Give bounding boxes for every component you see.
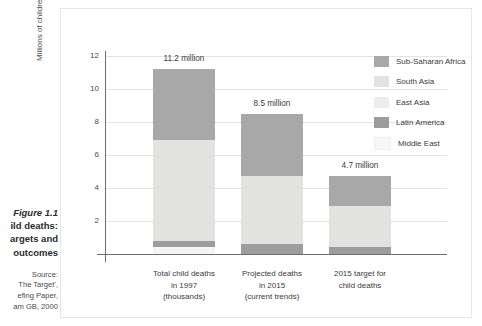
legend-swatch bbox=[374, 76, 389, 87]
figure-title-line-2: ild deaths: bbox=[0, 219, 58, 232]
x-axis-category-label: Total child deathsin 1997(thousands) bbox=[138, 268, 231, 303]
y-axis-tick-label: 4 bbox=[83, 183, 99, 192]
source-label: Source: bbox=[0, 270, 58, 281]
x-axis-label-line: in 2015 bbox=[226, 280, 319, 292]
legend-swatch bbox=[374, 97, 389, 108]
source-block: Source: The Target', efing Paper, am GB,… bbox=[0, 270, 58, 312]
figure-caption-block: Figure 1.1 ild deaths: argets and outcom… bbox=[0, 206, 58, 312]
figure-title-line-4: outcomes bbox=[0, 246, 58, 259]
x-axis-label-line: (current trends) bbox=[226, 291, 319, 303]
stacked-bar[interactable] bbox=[241, 114, 303, 254]
x-axis-category-label: Projected deathsin 2015(current trends) bbox=[226, 268, 319, 303]
bar-segment[interactable] bbox=[153, 140, 215, 241]
legend-swatch bbox=[374, 137, 391, 150]
source-line-3: am GB, 2000 bbox=[0, 302, 58, 313]
bar-segment[interactable] bbox=[241, 244, 303, 254]
y-axis-tick-label: 6 bbox=[83, 150, 99, 159]
legend-item[interactable]: Sub-Saharan Africa bbox=[374, 51, 470, 72]
chart-legend: Sub-Saharan AfricaSouth AsiaEast AsiaLat… bbox=[374, 51, 470, 154]
bar-group[interactable]: 11.2 millionTotal child deathsin 1997(th… bbox=[153, 56, 215, 254]
bar-segment[interactable] bbox=[241, 176, 303, 244]
x-axis-label-line: Projected deaths bbox=[226, 268, 319, 280]
legend-label: Latin America bbox=[396, 118, 444, 127]
legend-item[interactable]: Middle East bbox=[374, 133, 470, 154]
x-axis-label-line: child deaths bbox=[314, 280, 407, 292]
bar-total-label: 4.7 million bbox=[323, 161, 397, 170]
x-axis-label-line: (thousands) bbox=[138, 291, 231, 303]
y-axis-tick-label: 12 bbox=[83, 51, 99, 60]
legend-item[interactable]: Latin America bbox=[374, 113, 470, 134]
source-line-2: efing Paper, bbox=[0, 291, 58, 302]
legend-label: Middle East bbox=[398, 139, 440, 148]
bar-segment[interactable] bbox=[153, 247, 215, 254]
x-axis-line bbox=[97, 254, 447, 255]
stacked-bar[interactable] bbox=[329, 176, 391, 254]
y-axis-tick-label: 10 bbox=[83, 84, 99, 93]
legend-swatch bbox=[374, 117, 389, 128]
bar-group[interactable]: 8.5 millionProjected deathsin 2015(curre… bbox=[241, 56, 303, 254]
source-line-1: The Target', bbox=[0, 280, 58, 291]
bar-total-label: 8.5 million bbox=[235, 99, 309, 108]
x-axis-category-label: 2015 target forchild deaths bbox=[314, 268, 407, 291]
legend-label: Sub-Saharan Africa bbox=[396, 57, 465, 66]
y-axis-tick-label: 8 bbox=[83, 117, 99, 126]
bar-segment[interactable] bbox=[241, 114, 303, 177]
legend-swatch bbox=[374, 56, 389, 67]
y-axis-tick-label: 2 bbox=[83, 216, 99, 225]
legend-item[interactable]: South Asia bbox=[374, 72, 470, 93]
bar-segment[interactable] bbox=[329, 206, 391, 247]
legend-item[interactable]: East Asia bbox=[374, 92, 470, 113]
legend-label: East Asia bbox=[396, 98, 429, 107]
y-axis-title: Millions of children bbox=[35, 0, 44, 61]
plot-area: 11.2 millionTotal child deathsin 1997(th… bbox=[105, 56, 363, 254]
chart-frame: Millions of children 24681012 11.2 milli… bbox=[60, 8, 472, 318]
bar-segment[interactable] bbox=[329, 247, 391, 254]
x-axis-label-line: Total child deaths bbox=[138, 268, 231, 280]
bar-segment[interactable] bbox=[329, 176, 391, 206]
figure-number: Figure 1.1 bbox=[0, 206, 58, 219]
figure-title-line-3: argets and bbox=[0, 232, 58, 245]
bar-total-label: 11.2 million bbox=[147, 54, 221, 63]
stacked-bar[interactable] bbox=[153, 69, 215, 254]
x-axis-label-line: 2015 target for bbox=[314, 268, 407, 280]
bar-segment[interactable] bbox=[153, 69, 215, 140]
legend-label: South Asia bbox=[396, 77, 434, 86]
bar-segment[interactable] bbox=[153, 241, 215, 248]
x-axis-label-line: in 1997 bbox=[138, 280, 231, 292]
